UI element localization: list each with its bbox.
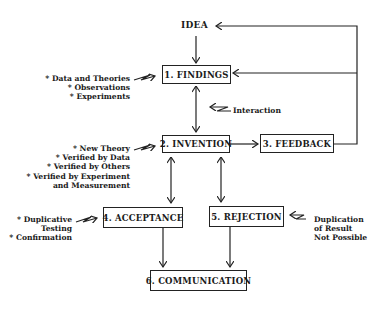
node-rejection-label: 5. REJECTION [211,212,282,222]
rejection-annotation: Duplication of Result Not Possible [314,215,367,243]
node-findings: 1. FINDINGS [162,65,231,84]
findings-annotation: * Data and Theories * Observations * Exp… [45,74,130,102]
node-communication: 6. COMMUNICATION [150,270,247,291]
node-communication-label: 6. COMMUNICATION [146,276,252,286]
node-invention-label: 2. INVENTION [160,139,232,149]
interaction-annotation: Interaction [233,106,281,115]
node-rejection: 5. REJECTION [209,206,284,227]
zigzag-arrow-acceptance [76,217,97,222]
node-acceptance-label: 4. ACCEPTANCE [103,213,184,223]
node-feedback: 3. FEEDBACK [260,134,334,153]
zigzag-arrow-invention [134,145,155,150]
node-findings-label: 1. FINDINGS [164,70,228,80]
zigzag-arrow-rejection [290,215,306,219]
node-feedback-label: 3. FEEDBACK [263,139,331,149]
zigzag-arrow-findings [134,75,155,80]
invention-annotation: * New Theory * Verified by Data * Verifi… [27,144,130,190]
idea-label: IDEA [181,20,208,30]
node-invention: 2. INVENTION [162,135,230,153]
feedback-loop-line [216,26,357,144]
acceptance-annotation: * Duplicative Testing * Confirmation [9,215,72,243]
node-acceptance: 4. ACCEPTANCE [103,207,183,228]
zigzag-arrow-interaction [210,107,231,111]
